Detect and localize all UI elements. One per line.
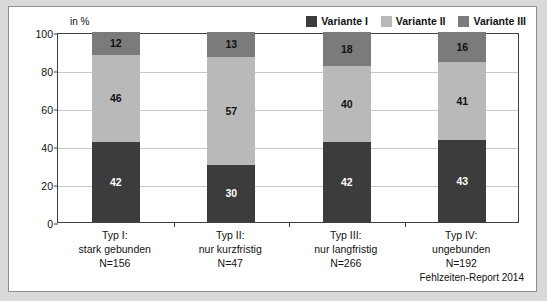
category-label-line: Typ III: <box>286 229 406 243</box>
bar-segment-value-label: 57 <box>225 106 237 117</box>
plot-area: 020406080100124642135730184042164143 <box>57 33 519 223</box>
y-axis-tick-mark <box>54 224 58 225</box>
x-axis-category-label: Typ III:nur langfristigN=266 <box>286 229 406 271</box>
bar-segment-value-label: 43 <box>456 176 468 187</box>
bar-segment: 30 <box>207 165 255 222</box>
category-label-line: ungebunden <box>401 243 521 257</box>
bar-segment-value-label: 30 <box>225 188 237 199</box>
bar-segment-value-label: 16 <box>456 42 468 53</box>
chart-figure: Variante IVariante IIVariante III in % 0… <box>8 6 537 292</box>
bar-segment-value-label: 41 <box>456 96 468 107</box>
y-axis-tick-mark <box>54 34 58 35</box>
x-axis-tick-mark <box>174 222 175 227</box>
y-axis-tick-label: 0 <box>47 218 53 230</box>
y-axis-tick-mark <box>54 186 58 187</box>
bar-segment-value-label: 42 <box>341 177 353 188</box>
x-axis-tick-mark <box>289 222 290 227</box>
legend-item: Variante I <box>306 15 368 27</box>
bar-segment: 46 <box>92 55 140 142</box>
category-label-line: N=156 <box>55 257 175 271</box>
category-label-line: Typ I: <box>55 229 175 243</box>
legend-swatch-icon <box>381 16 392 27</box>
category-label-line: stark gebunden <box>55 243 175 257</box>
bar-segment: 57 <box>207 57 255 165</box>
y-axis-tick-mark <box>54 72 58 73</box>
category-label-line: Typ IV: <box>401 229 521 243</box>
bar-segment-value-label: 42 <box>110 177 122 188</box>
legend-item: Variante II <box>381 15 446 27</box>
bar-segment-value-label: 18 <box>341 44 353 55</box>
x-axis-tick-mark <box>405 222 406 227</box>
stacked-bar: 164143 <box>438 32 486 222</box>
category-label-line: N=47 <box>170 257 290 271</box>
bar-segment: 16 <box>438 32 486 62</box>
bar-segment-value-label: 46 <box>110 93 122 104</box>
bar-segment: 40 <box>323 66 371 142</box>
stacked-bar: 135730 <box>207 32 255 222</box>
bar-segment-value-label: 40 <box>341 99 353 110</box>
legend-item-label: Variante I <box>321 15 368 27</box>
stacked-bar: 184042 <box>323 32 371 222</box>
category-label-line: N=192 <box>401 257 521 271</box>
x-axis-category-label: Typ IV:ungebundenN=192 <box>401 229 521 271</box>
category-label-line: nur kurzfristig <box>170 243 290 257</box>
bar-segment: 41 <box>438 62 486 140</box>
bar-segment: 18 <box>323 32 371 66</box>
y-axis-tick-label: 20 <box>41 180 53 192</box>
bar-segment: 42 <box>92 142 140 222</box>
bar-segment-value-label: 12 <box>110 38 122 49</box>
y-axis-tick-label: 60 <box>41 104 53 116</box>
bar-segment: 12 <box>92 32 140 55</box>
x-axis-category-label: Typ II:nur kurzfristigN=47 <box>170 229 290 271</box>
legend-item-label: Variante III <box>473 15 526 27</box>
y-axis-tick-mark <box>54 148 58 149</box>
y-axis-tick-label: 40 <box>41 142 53 154</box>
category-label-line: N=266 <box>286 257 406 271</box>
legend-swatch-icon <box>458 16 469 27</box>
legend-item-label: Variante II <box>396 15 446 27</box>
y-axis-tick-mark <box>54 110 58 111</box>
legend-swatch-icon <box>306 16 317 27</box>
y-axis-unit-label: in % <box>70 16 89 27</box>
stacked-bar: 124642 <box>92 32 140 222</box>
legend-item: Variante III <box>458 15 526 27</box>
category-label-line: Typ II: <box>170 229 290 243</box>
y-axis-tick-label: 100 <box>35 28 53 40</box>
chart-legend: Variante IVariante IIVariante III <box>306 15 526 27</box>
bar-segment: 13 <box>207 32 255 57</box>
y-axis-tick-label: 80 <box>41 66 53 78</box>
source-note: Fehlzeiten-Report 2014 <box>419 272 524 283</box>
category-label-line: nur langfristig <box>286 243 406 257</box>
bar-segment-value-label: 13 <box>225 39 237 50</box>
bar-segment: 43 <box>438 140 486 222</box>
x-axis-category-label: Typ I:stark gebundenN=156 <box>55 229 175 271</box>
bar-segment: 42 <box>323 142 371 222</box>
